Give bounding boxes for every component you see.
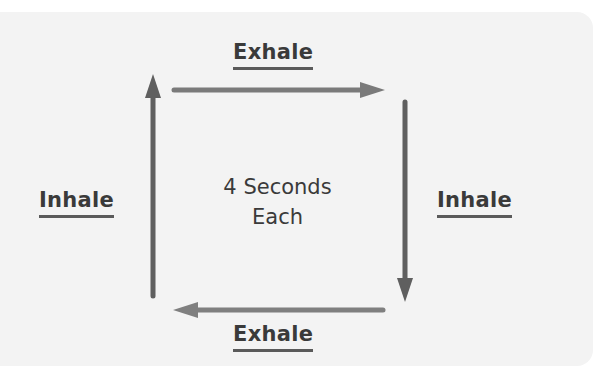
- label-right-inhale: Inhale: [437, 188, 512, 218]
- center-line-2: Each: [205, 202, 350, 232]
- label-bottom-exhale: Exhale: [233, 322, 313, 352]
- center-line-1: 4 Seconds: [205, 172, 350, 202]
- label-left-inhale: Inhale: [39, 188, 114, 218]
- arrow-left-up: [145, 74, 161, 296]
- arrow-bottom-left: [173, 302, 383, 318]
- center-text: 4 Seconds Each: [205, 172, 350, 232]
- arrow-top-right: [174, 82, 385, 98]
- label-top-exhale: Exhale: [233, 40, 313, 70]
- arrow-right-down: [397, 102, 413, 302]
